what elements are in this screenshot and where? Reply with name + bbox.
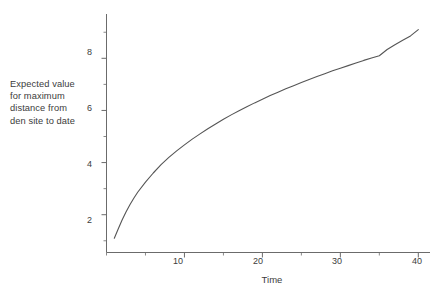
x-tick-marks — [107, 253, 419, 258]
y-tick-marks — [102, 32, 107, 241]
plot-area — [0, 0, 437, 296]
chart-figure: Expected value for maximum distance from… — [0, 0, 437, 296]
axis-lines — [107, 14, 431, 253]
data-series-line — [114, 30, 418, 239]
